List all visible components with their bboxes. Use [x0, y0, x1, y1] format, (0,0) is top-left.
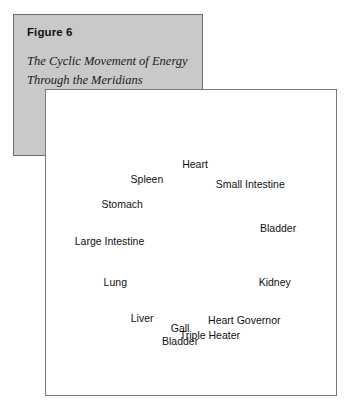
cycle-node-label: Liver: [131, 312, 154, 324]
cycle-node-gall-bladder: GallBladder: [162, 322, 199, 347]
cycle-node-label: Kidney: [259, 276, 292, 288]
cycle-node-label: Stomach: [101, 198, 143, 210]
cycle-node-small-intestine: Small Intestine: [216, 178, 285, 190]
cycle-node-stomach: Stomach: [101, 198, 143, 210]
cycle-node-label: Lung: [104, 276, 128, 288]
cycle-node-label: Large Intestine: [75, 235, 145, 247]
cycle-node-label: Gall: [171, 322, 190, 334]
figure-root: Figure 6 The Cyclic Movement of Energy T…: [0, 0, 356, 417]
cycle-node-label: Spleen: [131, 173, 164, 185]
cycle-node-lung: Lung: [104, 276, 128, 288]
cycle-node-heart: Heart: [182, 158, 208, 170]
cycle-node-heart-governor: Heart Governor: [208, 314, 281, 326]
cycle-label-layer: HeartSmall IntestineBladderKidneyHeart G…: [75, 158, 297, 347]
cycle-node-label: Small Intestine: [216, 178, 285, 190]
cycle-node-label: Heart Governor: [208, 314, 281, 326]
meridian-cycle-diagram: HeartSmall IntestineBladderKidneyHeart G…: [46, 90, 336, 395]
cycle-node-kidney: Kidney: [259, 276, 292, 288]
figure-title-line-1: The Cyclic Movement of Energy: [27, 52, 189, 71]
cycle-node-label: Bladder: [260, 222, 297, 234]
cycle-node-large-intestine: Large Intestine: [75, 235, 145, 247]
cycle-node-label: Bladder: [162, 335, 199, 347]
cycle-node-spleen: Spleen: [131, 173, 164, 185]
cycle-node-bladder: Bladder: [260, 222, 297, 234]
figure-number-label: Figure 6: [27, 26, 189, 39]
cycle-node-label: Heart: [182, 158, 208, 170]
meridian-cycle-panel: HeartSmall IntestineBladderKidneyHeart G…: [45, 89, 337, 396]
cycle-node-liver: Liver: [131, 312, 154, 324]
figure-title-line-2: Through the Meridians: [27, 71, 189, 90]
